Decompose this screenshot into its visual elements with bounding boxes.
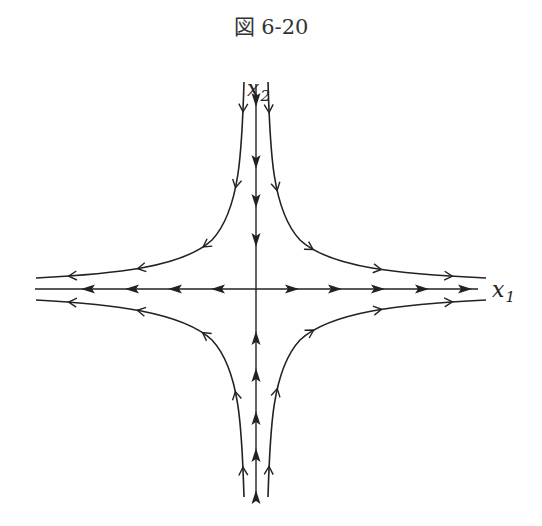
- trajectory-lower-left: [36, 300, 244, 497]
- x2-label: x2: [247, 76, 270, 105]
- phase-portrait: x1 x2: [0, 0, 542, 526]
- x2-axis-arrow-icon: [252, 490, 261, 504]
- trajectory-upper-right: [268, 82, 486, 278]
- axis-arrows: [81, 93, 472, 504]
- x1-label: x1: [492, 277, 515, 306]
- trajectory-upper-left: [36, 82, 244, 278]
- trajectory-lower-right: [268, 300, 486, 497]
